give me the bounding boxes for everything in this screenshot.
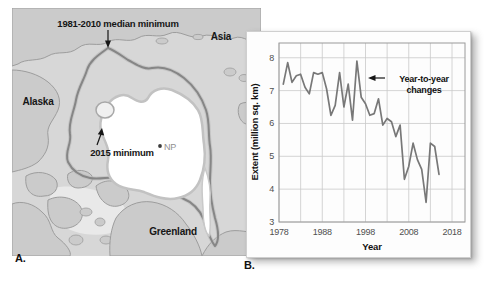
y-axis-title: Extent (million sq. km): [249, 84, 260, 181]
year-to-year-annotation-line2: changes: [406, 85, 441, 95]
y-tick-label: 3: [269, 217, 274, 227]
x-tick-label: 2008: [399, 227, 418, 237]
plot-frame: [279, 43, 465, 222]
y-tick-label: 6: [269, 118, 274, 128]
extent-chart: 19781988199820082018345678 Extent (milli…: [247, 32, 470, 257]
chart-gridlines: [279, 43, 465, 222]
figure: 1981-2010 median minimum 2015 minimum Al…: [0, 0, 484, 290]
siberian-island: [156, 38, 168, 44]
greenland-label: Greenland: [149, 226, 197, 237]
alaska-label: Alaska: [22, 96, 54, 107]
chart-card: 19781988199820082018345678 Extent (milli…: [246, 31, 471, 258]
siberian-island: [193, 34, 203, 39]
x-tick-label: 2018: [442, 227, 461, 237]
ice-floe-patch: [96, 102, 114, 118]
median-annotation-label: 1981-2010 median minimum: [57, 18, 178, 29]
x-tick-label: 1998: [356, 227, 375, 237]
x-tick-label: 1978: [269, 227, 288, 237]
north-pole-dot: [158, 144, 162, 148]
chart-frame: [279, 43, 465, 222]
y-tick-label: 8: [269, 53, 274, 63]
franz-josef-islet: [224, 68, 236, 76]
y-tick-label: 5: [269, 151, 274, 161]
year-to-year-annotation-line1: Year-to-year: [399, 74, 449, 84]
min2015-annotation-label: 2015 minimum: [90, 147, 154, 158]
y-tick-label: 4: [269, 184, 274, 194]
ice-2015-area: [100, 88, 204, 198]
arctic-islet: [95, 218, 105, 226]
panel-a-label: A.: [15, 252, 26, 264]
annotation-arrowhead: [368, 75, 376, 81]
x-tick-label: 1988: [313, 227, 332, 237]
asia-label: Asia: [211, 31, 232, 42]
panel-b-label: B.: [244, 259, 255, 271]
arctic-island: [26, 173, 58, 197]
y-tick-label: 7: [269, 86, 274, 96]
arctic-islet: [69, 235, 83, 245]
x-axis-title: Year: [362, 241, 382, 252]
north-pole-label: NP: [164, 142, 176, 152]
arctic-map: 1981-2010 median minimum 2015 minimum Al…: [12, 8, 261, 256]
arctic-islet: [80, 208, 92, 216]
arctic-map-panel: 1981-2010 median minimum 2015 minimum Al…: [12, 8, 261, 256]
